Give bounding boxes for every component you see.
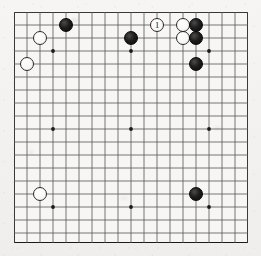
grid-lines <box>14 12 248 243</box>
move-number-label: 1 <box>151 19 164 32</box>
go-board-diagram: 1 <box>0 0 261 256</box>
board-grid <box>14 12 248 243</box>
stone-white-move-1: 1 <box>150 18 165 33</box>
